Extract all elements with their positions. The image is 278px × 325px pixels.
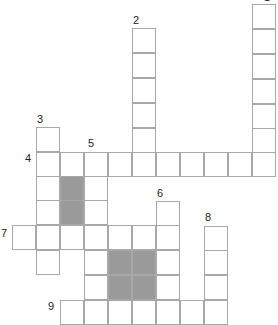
crossword-cell[interactable] <box>108 152 132 177</box>
crossword-cell[interactable] <box>132 152 156 177</box>
crossword-cell[interactable] <box>60 300 84 325</box>
crossword-cell[interactable] <box>84 225 108 250</box>
crossword-cell[interactable] <box>36 176 60 201</box>
crossword-cell[interactable] <box>156 152 180 177</box>
crossword-grid: 123456789 <box>0 0 278 325</box>
crossword-cell[interactable] <box>132 225 156 250</box>
crossword-cell[interactable] <box>252 79 276 104</box>
crossword-cell[interactable] <box>84 152 108 177</box>
crossword-cell[interactable] <box>156 275 180 300</box>
crossword-cell[interactable] <box>132 53 156 78</box>
crossword-cell[interactable] <box>252 54 276 79</box>
clue-number-label: 1 <box>264 0 270 3</box>
crossword-cell[interactable] <box>36 225 60 250</box>
crossword-cell[interactable] <box>132 28 156 53</box>
clue-number-label: 3 <box>37 114 43 125</box>
shaded-cell <box>132 275 156 300</box>
clue-number-label: 8 <box>205 212 211 223</box>
crossword-cell[interactable] <box>252 104 276 129</box>
crossword-cell[interactable] <box>132 300 156 325</box>
clue-number-label: 9 <box>48 301 54 312</box>
crossword-cell[interactable] <box>252 152 276 177</box>
crossword-cell[interactable] <box>84 275 108 300</box>
crossword-cell[interactable] <box>204 250 228 275</box>
crossword-cell[interactable] <box>132 78 156 103</box>
crossword-cell[interactable] <box>36 127 60 152</box>
shaded-cell <box>108 275 132 300</box>
crossword-cell[interactable] <box>12 225 36 250</box>
crossword-cell[interactable] <box>84 176 108 201</box>
crossword-cell[interactable] <box>180 300 204 325</box>
crossword-cell[interactable] <box>204 275 228 300</box>
clue-number-label: 5 <box>88 138 94 149</box>
crossword-cell[interactable] <box>252 128 276 153</box>
crossword-cell[interactable] <box>156 250 180 275</box>
crossword-cell[interactable] <box>132 128 156 153</box>
crossword-cell[interactable] <box>60 152 84 177</box>
crossword-cell[interactable] <box>36 250 60 275</box>
crossword-cell[interactable] <box>156 225 180 250</box>
crossword-cell[interactable] <box>36 152 60 177</box>
crossword-cell[interactable] <box>228 152 252 177</box>
crossword-cell[interactable] <box>156 201 180 226</box>
crossword-cell[interactable] <box>84 300 108 325</box>
crossword-cell[interactable] <box>84 250 108 275</box>
clue-number-label: 2 <box>133 15 139 26</box>
clue-number-label: 7 <box>1 228 7 239</box>
crossword-cell[interactable] <box>204 300 228 325</box>
crossword-cell[interactable] <box>156 300 180 325</box>
clue-number-label: 4 <box>25 153 31 164</box>
shaded-cell <box>132 250 156 275</box>
crossword-cell[interactable] <box>84 200 108 225</box>
crossword-cell[interactable] <box>252 29 276 54</box>
clue-number-label: 6 <box>157 188 163 199</box>
crossword-cell[interactable] <box>108 300 132 325</box>
crossword-cell[interactable] <box>204 226 228 251</box>
crossword-cell[interactable] <box>36 200 60 225</box>
shaded-cell <box>60 200 84 225</box>
crossword-cell[interactable] <box>132 103 156 128</box>
crossword-cell[interactable] <box>180 152 204 177</box>
crossword-cell[interactable] <box>108 225 132 250</box>
crossword-cell[interactable] <box>252 4 276 29</box>
shaded-cell <box>60 176 84 201</box>
crossword-cell[interactable] <box>204 152 228 177</box>
crossword-cell[interactable] <box>60 225 84 250</box>
shaded-cell <box>108 250 132 275</box>
